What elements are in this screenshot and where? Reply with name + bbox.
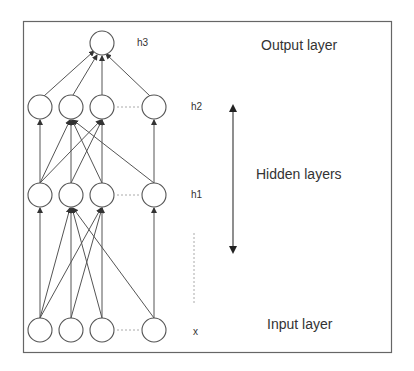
edges-h1-to-h2 — [40, 120, 154, 183]
row-label-h1: h1 — [191, 189, 202, 200]
row-label-h3: h3 — [137, 37, 148, 48]
node-h2-1 — [28, 95, 52, 119]
nodes — [28, 31, 166, 342]
edges-h2-to-h3 — [44, 51, 150, 96]
hidden-layers-label: Hidden layers — [256, 166, 342, 182]
node-h2-2 — [59, 95, 83, 119]
hidden-layers-span-arrow — [229, 104, 237, 254]
ellipsis-connectors — [117, 107, 194, 330]
node-x-n — [142, 318, 166, 342]
node-h1-3 — [90, 183, 114, 207]
node-h1-2 — [59, 183, 83, 207]
node-h2-3 — [90, 95, 114, 119]
input-layer-label: Input layer — [267, 316, 332, 332]
node-h1-n — [142, 183, 166, 207]
row-label-h2: h2 — [191, 101, 202, 112]
node-x-2 — [59, 318, 83, 342]
row-label-x: x — [193, 326, 198, 337]
node-h1-1 — [28, 183, 52, 207]
edges-input-to-h1 — [40, 208, 154, 318]
output-layer-label: Output layer — [261, 37, 337, 53]
node-h3 — [90, 31, 114, 55]
node-x-1 — [28, 318, 52, 342]
node-x-3 — [90, 318, 114, 342]
node-h2-n — [142, 95, 166, 119]
network-diagram — [0, 0, 414, 371]
